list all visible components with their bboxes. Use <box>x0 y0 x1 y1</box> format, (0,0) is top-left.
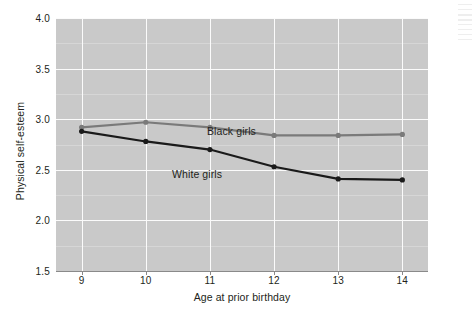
data-point <box>400 177 405 182</box>
data-point <box>336 133 341 138</box>
y-tick-label: 4.0 <box>4 13 50 24</box>
x-tick-label: 10 <box>140 275 152 286</box>
series-label-white-girls: White girls <box>172 168 222 180</box>
data-point <box>271 164 276 169</box>
data-point <box>336 176 341 181</box>
data-point <box>271 133 276 138</box>
data-point <box>143 139 148 144</box>
x-tick-label: 14 <box>397 275 409 286</box>
x-tick-label: 9 <box>79 275 85 286</box>
data-point <box>207 147 212 152</box>
x-tick-label: 11 <box>205 275 216 286</box>
y-axis-title: Physical self-esteem <box>14 71 26 231</box>
y-tick-label: 3.0 <box>4 114 50 125</box>
series-line <box>82 131 403 180</box>
data-point <box>143 120 148 125</box>
y-tick-label: 2.5 <box>4 164 50 175</box>
data-point <box>400 132 405 137</box>
data-point <box>79 129 84 134</box>
page-edge-sliver <box>458 4 472 44</box>
y-tick-label: 2.0 <box>4 215 50 226</box>
y-tick-label: 3.5 <box>4 63 50 74</box>
y-tick-label: 1.5 <box>4 266 50 277</box>
x-tick-label: 12 <box>268 275 280 286</box>
plot-area: Black girls White girls <box>56 18 428 271</box>
chart-figure: Black girls White girls 1.52.02.53.03.54… <box>0 0 472 311</box>
x-axis-title: Age at prior birthday <box>56 291 428 303</box>
x-axis-line <box>56 271 428 272</box>
series-overlay <box>56 18 428 271</box>
x-tick-label: 13 <box>332 275 344 286</box>
series-label-black-girls: Black girls <box>207 125 256 137</box>
